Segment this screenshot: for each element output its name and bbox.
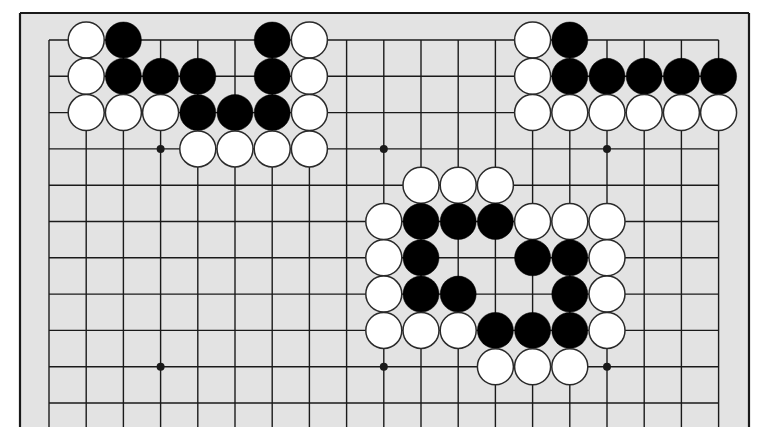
- go-board[interactable]: [0, 0, 759, 439]
- black-stone[interactable]: [254, 58, 290, 94]
- black-stone[interactable]: [143, 58, 179, 94]
- white-stone[interactable]: [515, 58, 551, 94]
- black-stone[interactable]: [105, 22, 141, 58]
- black-stone[interactable]: [180, 58, 216, 94]
- black-stone[interactable]: [552, 312, 588, 348]
- white-stone[interactable]: [143, 95, 179, 131]
- black-stone[interactable]: [440, 204, 476, 240]
- white-stone[interactable]: [105, 95, 141, 131]
- white-stone[interactable]: [403, 167, 439, 203]
- white-stone[interactable]: [589, 204, 625, 240]
- star-point-icon: [380, 363, 388, 371]
- black-stone[interactable]: [440, 276, 476, 312]
- black-stone[interactable]: [701, 58, 737, 94]
- black-stone[interactable]: [477, 312, 513, 348]
- black-stone[interactable]: [589, 58, 625, 94]
- black-stone[interactable]: [254, 22, 290, 58]
- black-stone[interactable]: [477, 204, 513, 240]
- black-stone[interactable]: [552, 240, 588, 276]
- white-stone[interactable]: [68, 95, 104, 131]
- white-stone[interactable]: [589, 276, 625, 312]
- white-stone[interactable]: [254, 131, 290, 167]
- star-point-icon: [157, 363, 165, 371]
- star-point-icon: [603, 363, 611, 371]
- white-stone[interactable]: [68, 22, 104, 58]
- black-stone[interactable]: [515, 240, 551, 276]
- white-stone[interactable]: [366, 240, 402, 276]
- star-point-icon: [603, 145, 611, 153]
- white-stone[interactable]: [440, 167, 476, 203]
- white-stone[interactable]: [366, 312, 402, 348]
- black-stone[interactable]: [254, 95, 290, 131]
- white-stone[interactable]: [663, 95, 699, 131]
- star-point-icon: [157, 145, 165, 153]
- white-stone[interactable]: [701, 95, 737, 131]
- white-stone[interactable]: [180, 131, 216, 167]
- white-stone[interactable]: [552, 204, 588, 240]
- white-stone[interactable]: [68, 58, 104, 94]
- white-stone[interactable]: [589, 240, 625, 276]
- black-stone[interactable]: [626, 58, 662, 94]
- white-stone[interactable]: [552, 349, 588, 385]
- white-stone[interactable]: [589, 95, 625, 131]
- black-stone[interactable]: [217, 95, 253, 131]
- white-stone[interactable]: [515, 95, 551, 131]
- star-point-icon: [380, 145, 388, 153]
- white-stone[interactable]: [291, 131, 327, 167]
- black-stone[interactable]: [403, 240, 439, 276]
- white-stone[interactable]: [477, 349, 513, 385]
- white-stone[interactable]: [366, 276, 402, 312]
- black-stone[interactable]: [403, 276, 439, 312]
- black-stone[interactable]: [180, 95, 216, 131]
- black-stone[interactable]: [663, 58, 699, 94]
- white-stone[interactable]: [626, 95, 662, 131]
- black-stone[interactable]: [105, 58, 141, 94]
- white-stone[interactable]: [291, 22, 327, 58]
- white-stone[interactable]: [403, 312, 439, 348]
- white-stone[interactable]: [477, 167, 513, 203]
- white-stone[interactable]: [515, 204, 551, 240]
- white-stone[interactable]: [515, 349, 551, 385]
- white-stone[interactable]: [440, 312, 476, 348]
- white-stone[interactable]: [291, 58, 327, 94]
- white-stone[interactable]: [291, 95, 327, 131]
- white-stone[interactable]: [217, 131, 253, 167]
- white-stone[interactable]: [366, 204, 402, 240]
- black-stone[interactable]: [515, 312, 551, 348]
- white-stone[interactable]: [552, 95, 588, 131]
- white-stone[interactable]: [515, 22, 551, 58]
- black-stone[interactable]: [552, 58, 588, 94]
- black-stone[interactable]: [403, 204, 439, 240]
- white-stone[interactable]: [589, 312, 625, 348]
- black-stone[interactable]: [552, 276, 588, 312]
- black-stone[interactable]: [552, 22, 588, 58]
